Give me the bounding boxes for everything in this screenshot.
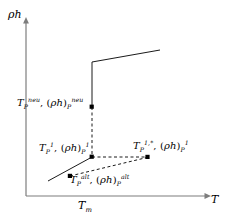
x-axis-label: T — [211, 194, 218, 205]
neu-temp-symbol: T — [17, 97, 24, 108]
neu-temp-superscript: neu — [28, 96, 40, 103]
p1-point-marker — [90, 155, 94, 159]
p1star-point-marker — [145, 155, 149, 159]
axes-group — [26, 20, 208, 196]
y-axis-arrowhead — [23, 17, 29, 24]
label-p1-point: TP1, (ρh)P1 — [39, 143, 90, 153]
alt-temp-symbol: T — [70, 174, 77, 185]
p1star-enthalpy-superscript: 1 — [185, 139, 189, 146]
p1star-enthalpy-subscript: P — [180, 146, 184, 153]
alt-enthalpy-subscript: P — [117, 180, 121, 187]
alt-enthalpy-symbol: ρh — [100, 174, 113, 185]
neu-enthalpy-superscript: neu — [71, 96, 83, 103]
diagram-canvas — [0, 0, 228, 224]
p1-enthalpy-subscript: P — [81, 148, 85, 155]
neu-enthalpy-symbol: ρh — [51, 97, 64, 108]
p1star-temp-symbol: T — [133, 140, 140, 151]
p1-enthalpy-symbol: ρh — [65, 142, 78, 153]
enthalpy-temperature-diagram: ρh T Tm TPneu, (ρh)Pneu TP1, (ρh)P1 TP1,… — [0, 0, 228, 224]
neu-point-marker — [90, 105, 94, 109]
label-p1star-point: TP1,*, (ρh)P1 — [133, 141, 189, 151]
y-axis-label: ρh — [8, 9, 22, 20]
p1star-temp-subscript: P — [140, 146, 144, 153]
neu-enthalpy-subscript: P — [67, 103, 71, 110]
p1star-enthalpy-symbol: ρh — [164, 140, 177, 151]
alt-temp-subscript: P — [77, 180, 81, 187]
tm-subscript: m — [85, 206, 92, 214]
p1-temp-symbol: T — [39, 142, 46, 153]
p1-temp-subscript: P — [46, 148, 50, 155]
alt-enthalpy-superscript: alt — [121, 173, 129, 180]
upper-branch-curve — [92, 50, 160, 107]
x-tick-label-tm: Tm — [78, 200, 92, 211]
label-alt-point: TPalt, (ρh)Palt — [70, 175, 129, 185]
alt-temp-superscript: alt — [81, 173, 89, 180]
neu-temp-subscript: P — [24, 103, 28, 110]
label-neu-point: TPneu, (ρh)Pneu — [17, 98, 83, 108]
p1-enthalpy-superscript: 1 — [85, 141, 89, 148]
p1star-temp-superscript: 1,* — [144, 139, 153, 146]
